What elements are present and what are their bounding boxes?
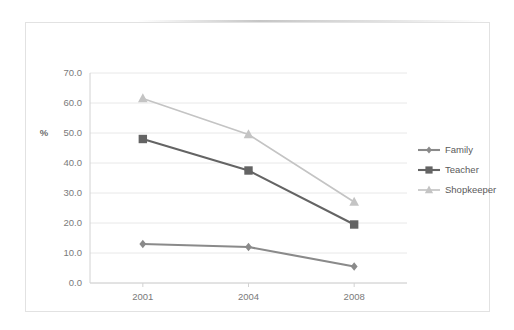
line-chart: 0.010.020.030.040.050.060.070.0 20012004… xyxy=(0,0,514,330)
diamond-icon xyxy=(351,262,358,270)
y-tick-label: 30.0 xyxy=(64,187,83,198)
chart-legend: FamilyTeacherShopkeeper xyxy=(418,144,496,195)
x-axis-tick-labels: 200120042008 xyxy=(132,291,364,302)
diamond-icon xyxy=(139,240,146,248)
y-tick-label: 50.0 xyxy=(64,127,83,138)
axis-lines xyxy=(90,73,407,287)
y-tick-label: 20.0 xyxy=(64,217,83,228)
square-icon xyxy=(244,166,252,174)
square-icon xyxy=(425,166,432,173)
y-axis-tick-labels: 0.010.020.030.040.050.060.070.0 xyxy=(64,67,83,288)
legend-label: Shopkeeper xyxy=(445,184,496,195)
x-tick-label: 2004 xyxy=(238,291,259,302)
chart-figure: 0.010.020.030.040.050.060.070.0 20012004… xyxy=(0,0,514,330)
y-tick-label: 0.0 xyxy=(69,277,82,288)
square-icon xyxy=(139,135,147,143)
series-family xyxy=(139,240,357,271)
diamond-icon xyxy=(245,243,252,251)
y-tick-label: 40.0 xyxy=(64,157,83,168)
series-teacher xyxy=(139,135,359,229)
square-icon xyxy=(350,220,358,228)
legend-item-shopkeeper[interactable]: Shopkeeper xyxy=(418,184,496,195)
diamond-icon xyxy=(426,146,432,153)
legend-item-teacher[interactable]: Teacher xyxy=(418,164,479,175)
y-tick-label: 60.0 xyxy=(64,97,83,108)
y-axis-title: % xyxy=(40,127,49,138)
triangle-icon xyxy=(138,93,148,102)
x-tick-label: 2008 xyxy=(344,291,365,302)
legend-label: Family xyxy=(445,144,473,155)
y-tick-label: 10.0 xyxy=(64,247,83,258)
legend-label: Teacher xyxy=(445,164,479,175)
x-tick-label: 2001 xyxy=(132,291,153,302)
y-tick-label: 70.0 xyxy=(64,67,83,78)
data-series-group xyxy=(138,93,359,270)
series-line xyxy=(143,99,354,203)
y-axis-title-text: % xyxy=(40,127,49,138)
gridlines xyxy=(90,73,407,283)
triangle-icon xyxy=(349,197,359,206)
legend-item-family[interactable]: Family xyxy=(418,144,473,155)
series-shopkeeper xyxy=(138,93,359,206)
